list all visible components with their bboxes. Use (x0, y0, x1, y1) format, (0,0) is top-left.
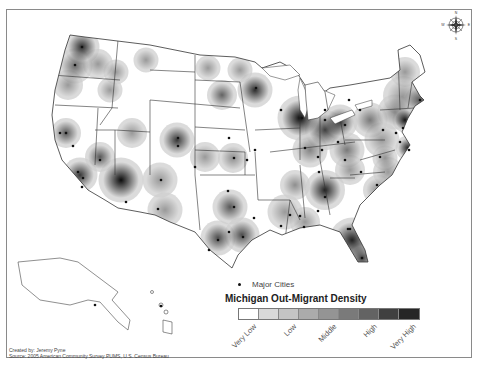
city-dot (177, 137, 180, 140)
city-dot (304, 147, 307, 150)
ramp-swatch (339, 309, 359, 319)
city-dot (317, 210, 320, 213)
city-dot-icon (238, 283, 241, 286)
hotspot (210, 83, 234, 107)
city-dot (157, 208, 160, 211)
hotspot (395, 110, 415, 130)
compass-n: N (455, 11, 458, 15)
hotspot (366, 178, 390, 202)
city-dot (217, 239, 220, 242)
legend-cities-label: Major Cities (252, 280, 294, 289)
hotspot (66, 161, 94, 189)
city-dot (177, 145, 180, 148)
city-dot (337, 141, 340, 144)
ramp-swatch (299, 309, 319, 319)
city-dot (233, 157, 236, 160)
city-dot (194, 166, 197, 169)
hotspot (230, 60, 250, 80)
city-dot (399, 141, 402, 144)
credits: Created by: Jeremy Pyne Source: 2005 Ame… (9, 347, 169, 359)
city-dot (242, 236, 245, 239)
hotspot (309, 174, 341, 206)
ramp-swatch (279, 309, 299, 319)
city-dot (347, 228, 350, 231)
legend-major-cities: Major Cities (238, 280, 294, 289)
city-dot (246, 159, 249, 162)
hotspot (198, 58, 218, 78)
city-dot (228, 137, 231, 140)
city-dot (359, 109, 362, 112)
city-dot (99, 159, 102, 162)
hotspot (100, 80, 120, 100)
city-dot (324, 119, 327, 122)
ramp-swatch (319, 309, 339, 319)
city-dot (301, 117, 304, 120)
hotspot (88, 145, 112, 169)
legend-title: Michigan Out-Migrant Density (225, 293, 367, 304)
city-dot (160, 179, 163, 182)
hotspot (120, 121, 144, 145)
hotspot (338, 158, 362, 182)
hawaii (151, 291, 173, 335)
city-dot (227, 190, 230, 193)
city-dot (321, 149, 324, 152)
city-dot (382, 129, 385, 132)
city-dot (81, 186, 84, 189)
ramp-swatch (399, 309, 419, 319)
city-dot (82, 177, 85, 180)
city-dot (289, 214, 292, 217)
city-dot (59, 132, 62, 135)
city-dot (303, 226, 306, 229)
hotspot (241, 76, 269, 104)
city-dot (253, 217, 256, 220)
city-dot (72, 145, 75, 148)
city-dot (77, 171, 80, 174)
city-dot (361, 257, 364, 260)
city-dot (408, 149, 411, 152)
hotspot (283, 173, 307, 197)
compass-w: W (441, 23, 445, 27)
city-dot (255, 87, 258, 90)
compass-e: E (468, 23, 471, 27)
city-dot (160, 305, 163, 308)
ramp-swatch (239, 309, 259, 319)
city-dot (74, 64, 77, 67)
hotspot (103, 162, 139, 198)
city-dot (360, 171, 363, 174)
city-dot (379, 156, 382, 159)
compass-rose-icon: N S E W (441, 10, 471, 40)
hotspot (228, 221, 256, 249)
city-dot (299, 215, 302, 218)
hotspot (136, 50, 156, 70)
city-dot (324, 109, 327, 112)
hotspot (435, 50, 455, 70)
city-dot (125, 201, 128, 204)
city-dot (344, 159, 347, 162)
ramp-swatch (259, 309, 279, 319)
city-dot (280, 109, 283, 112)
ramp-swatch (379, 309, 399, 319)
city-dot (280, 225, 283, 228)
city-dot (376, 184, 379, 187)
source: Source: 2005 American Community Survey P… (9, 353, 169, 359)
hotspot (393, 60, 417, 84)
city-dot (419, 99, 422, 102)
hotspot (163, 126, 191, 154)
city-dot (94, 304, 97, 307)
city-dot (233, 206, 236, 209)
city-dot (402, 127, 405, 130)
city-dot (324, 196, 327, 199)
city-dot (208, 249, 211, 252)
alaska (18, 258, 130, 330)
compass-s: S (455, 37, 458, 41)
city-dot (344, 124, 347, 127)
city-dot (348, 99, 351, 102)
city-dot (81, 46, 84, 49)
hotspot (193, 145, 217, 169)
city-dot (65, 132, 68, 135)
city-dot (318, 171, 321, 174)
ramp-swatch (359, 309, 379, 319)
city-dot (254, 149, 257, 152)
city-dot (317, 156, 320, 159)
density-color-ramp (238, 308, 420, 320)
